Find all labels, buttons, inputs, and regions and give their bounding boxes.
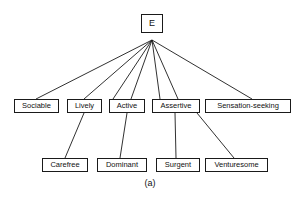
node-root-label: E xyxy=(149,19,155,28)
edge-assertive-to-surgent xyxy=(175,113,176,158)
node-label: Dominant xyxy=(106,161,138,169)
node-label: Lively xyxy=(75,102,94,110)
node-label: Surgent xyxy=(165,161,191,169)
edges-from-level2 xyxy=(65,113,234,158)
node-dominant: Dominant xyxy=(97,158,147,172)
edge-active-to-dominant xyxy=(120,113,127,158)
node-label: Active xyxy=(117,102,137,110)
edge-e-to-sensation-seeking xyxy=(152,40,252,99)
node-label: Venturesome xyxy=(214,161,258,169)
node-sensation-seeking: Sensation-seeking xyxy=(205,99,291,113)
node-active: Active xyxy=(109,99,145,113)
edge-e-to-assertive xyxy=(152,40,160,99)
node-label: Carefree xyxy=(50,161,79,169)
edge-e-to-lively xyxy=(84,40,152,99)
edge-e-to-sociable xyxy=(36,40,152,99)
node-label: Sensation-seeking xyxy=(217,102,279,110)
node-root: E xyxy=(141,14,163,33)
node-label: Sociable xyxy=(22,102,51,110)
node-venturesome: Venturesome xyxy=(205,158,268,172)
node-sociable: Sociable xyxy=(14,99,59,113)
edge-e-to-active xyxy=(113,40,152,99)
edge-e-to-active xyxy=(131,40,152,99)
figure-caption: (a) xyxy=(120,178,180,192)
edge-assertive-to-venturesome xyxy=(197,113,234,158)
edge-e-to-assertive xyxy=(152,40,178,99)
node-assertive: Assertive xyxy=(152,99,200,113)
node-surgent: Surgent xyxy=(156,158,200,172)
node-carefree: Carefree xyxy=(42,158,88,172)
edges-from-root xyxy=(36,40,252,99)
figure-canvas: E SociableLivelyActiveAssertiveSensation… xyxy=(0,0,299,199)
edge-lively-to-carefree xyxy=(65,113,84,158)
node-label: Assertive xyxy=(161,102,192,110)
node-lively: Lively xyxy=(67,99,102,113)
